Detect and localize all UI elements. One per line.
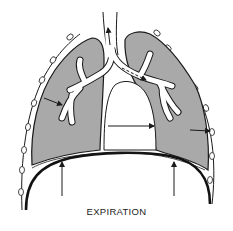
diagram-caption: EXPIRATION — [0, 206, 233, 217]
respiration-diagram: EXPIRATION — [0, 0, 233, 231]
lung-diagram-svg — [0, 0, 233, 231]
